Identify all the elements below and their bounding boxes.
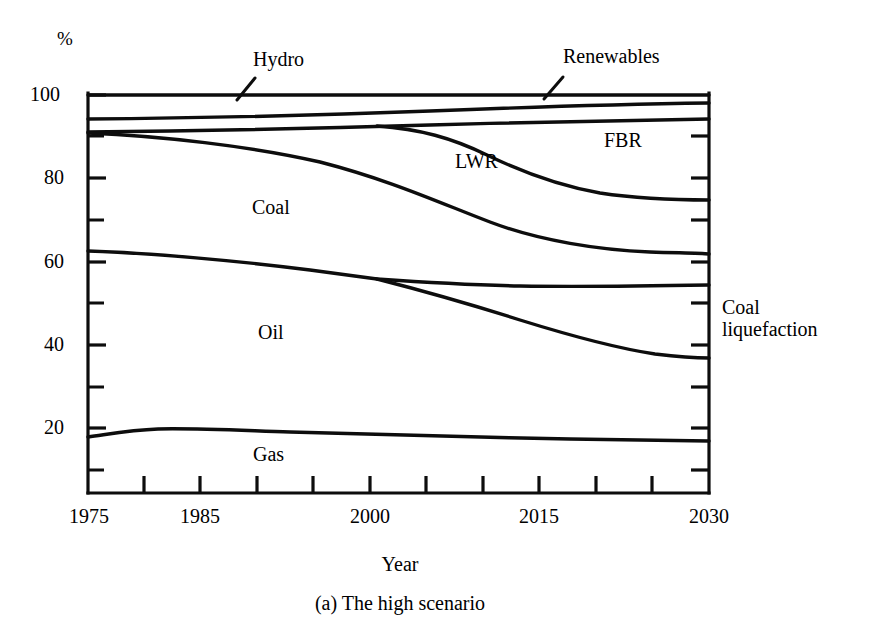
band-label-gas: Gas — [253, 443, 284, 465]
side-label-coal-liquefaction-line2: liquefaction — [722, 318, 818, 340]
band-label-oil: Oil — [258, 321, 284, 343]
y-axis-minor-ticks — [88, 136, 104, 470]
curve-renewables-boundary — [88, 103, 709, 119]
y-tick-label-40: 40 — [44, 333, 64, 355]
y-tick-label-20: 20 — [44, 416, 64, 438]
curve-coal-liquefaction-boundary — [377, 279, 709, 358]
x-tick-label-1985: 1985 — [171, 505, 229, 527]
x-axis-ticks — [144, 476, 652, 493]
band-label-lwr: LWR — [455, 150, 498, 172]
y-tick-label-100: 100 — [30, 83, 60, 105]
band-label-hydro: Hydro — [253, 48, 304, 70]
x-tick-label-2015: 2015 — [510, 505, 568, 527]
y-tick-label-80: 80 — [44, 166, 64, 188]
band-label-renewables: Renewables — [563, 45, 660, 67]
axis-frame — [88, 93, 709, 493]
curve-coal-boundary — [88, 251, 709, 286]
right-axis-ticks — [691, 136, 709, 470]
x-axis-title: Year — [340, 553, 460, 575]
curve-gas-boundary — [88, 429, 709, 441]
y-axis-major-ticks — [88, 95, 106, 428]
figure-high-scenario: % 100 80 60 40 20 1975 1985 2000 2015 20… — [0, 0, 875, 633]
band-label-fbr: FBR — [604, 129, 642, 151]
figure-caption: (a) The high scenario — [275, 592, 525, 614]
x-tick-label-1975: 1975 — [60, 505, 118, 527]
y-tick-label-60: 60 — [44, 250, 64, 272]
side-label-coal-liquefaction-line1: Coal — [722, 296, 818, 318]
x-tick-label-2030: 2030 — [680, 505, 738, 527]
side-label-coal-liquefaction: Coal liquefaction — [722, 296, 818, 341]
y-axis-unit-label: % — [57, 28, 73, 49]
x-tick-label-2000: 2000 — [341, 505, 399, 527]
band-label-coal: Coal — [252, 196, 290, 218]
curve-fbr-boundary — [377, 126, 709, 200]
